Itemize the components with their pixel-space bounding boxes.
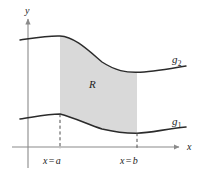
figure-canvas (0, 0, 203, 176)
region-fill (20, 36, 186, 133)
tick-b-value: b (133, 155, 138, 166)
shaded-region-R (20, 36, 186, 133)
tick-b-operator: = (125, 155, 133, 166)
curve-label-g1-base: g (172, 115, 178, 127)
curve-label-g1-subscript: 1 (178, 121, 182, 130)
curve-label-g1: g1 (172, 116, 181, 127)
curve-label-g2: g2 (172, 54, 181, 65)
tick-a-operator: = (48, 155, 56, 166)
tick-label-x-equals-a: x=a (43, 156, 61, 166)
curve-label-g2-base: g (172, 53, 178, 65)
tick-a-value: a (56, 155, 61, 166)
y-axis-label: y (25, 6, 29, 16)
tick-label-x-equals-b: x=b (120, 156, 138, 166)
region-label-R: R (89, 79, 96, 90)
x-axis-label: x (187, 142, 191, 152)
curve-label-g2-subscript: 2 (178, 59, 182, 68)
figure-container: y x g2 g1 R x=a x=b (0, 0, 203, 176)
